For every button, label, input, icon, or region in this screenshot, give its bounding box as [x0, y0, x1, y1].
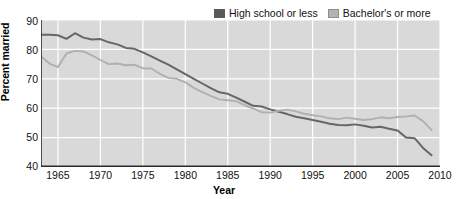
legend-label-high-school: High school or less: [229, 8, 318, 19]
x-tick-1990: 1990: [250, 169, 290, 181]
plot-area: [41, 20, 440, 167]
legend-entry-high-school: High school or less: [214, 8, 318, 19]
legend-label-bachelors: Bachelor's or more: [343, 8, 431, 19]
x-axis-title: Year: [0, 184, 448, 196]
light-swatch-icon: [328, 9, 339, 18]
x-tick-1995: 1995: [293, 169, 333, 181]
x-tick-2005: 2005: [378, 169, 418, 181]
y-axis-title: Percent married: [0, 12, 11, 112]
x-tick-1980: 1980: [165, 169, 205, 181]
x-tick-1975: 1975: [123, 169, 163, 181]
x-tick-2010: 2010: [420, 169, 456, 181]
x-tick-2000: 2000: [335, 169, 375, 181]
x-tick-1965: 1965: [38, 169, 78, 181]
dark-swatch-icon: [214, 9, 225, 18]
x-tick-1985: 1985: [208, 169, 248, 181]
chart-svg: [41, 20, 440, 167]
x-tick-1970: 1970: [80, 169, 120, 181]
legend-entry-bachelors: Bachelor's or more: [328, 8, 431, 19]
x-axis-tick-labels: 1965197019751980198519901995200020052010: [0, 169, 448, 183]
chart-legend: High school or less Bachelor's or more: [214, 6, 431, 20]
y-tick-50: 50: [4, 131, 38, 143]
